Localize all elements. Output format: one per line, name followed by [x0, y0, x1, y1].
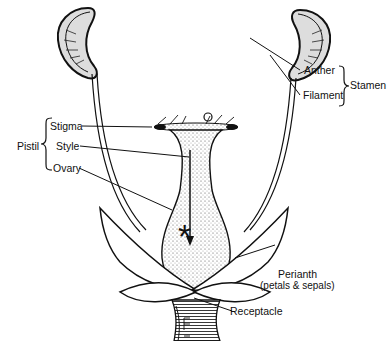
- label-pistil: Pistil: [17, 140, 39, 152]
- receptacle: [172, 300, 220, 341]
- left-anther: [58, 8, 97, 78]
- label-perianth-sub: (petals & sepals): [260, 280, 334, 292]
- label-ovary: Ovary: [53, 162, 81, 174]
- ovary-marker: *: [178, 217, 191, 255]
- stigma: [154, 113, 238, 131]
- label-stamen: Stamen: [350, 79, 386, 91]
- label-receptacle: Receptacle: [230, 305, 283, 317]
- label-style: Style: [56, 140, 79, 152]
- label-perianth: Perianth: [278, 268, 317, 280]
- label-stigma: Stigma: [50, 120, 83, 132]
- label-anther: Anther: [304, 64, 335, 76]
- pistil-body: [162, 130, 230, 292]
- label-filament: Filament: [303, 89, 343, 101]
